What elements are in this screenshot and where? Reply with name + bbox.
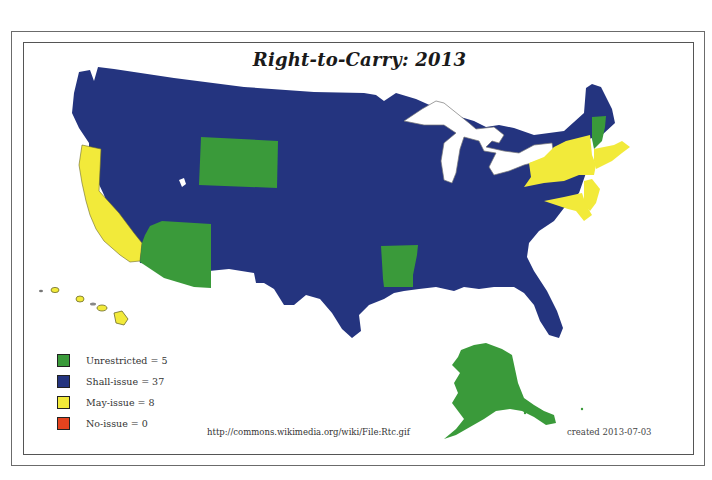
legend-item-shall-issue: Shall-issue = 37 <box>57 371 167 392</box>
state-wyoming <box>199 137 278 188</box>
swatch-unrestricted <box>57 354 70 367</box>
state-shall-issue-mass <box>72 67 615 338</box>
gulf-bay <box>454 293 466 301</box>
state-arizona <box>140 221 211 288</box>
created-date: created 2013-07-03 <box>567 427 652 437</box>
alaska-islet <box>581 408 583 410</box>
source-url: http://commons.wikimedia.org/wiki/File:R… <box>207 427 410 437</box>
legend-label: No-issue = 0 <box>86 418 148 429</box>
state-alaska <box>444 343 556 439</box>
legend-label: Shall-issue = 37 <box>86 376 164 387</box>
state-massachusetts <box>594 141 630 169</box>
alaska-islet <box>524 412 526 414</box>
swatch-no-issue <box>57 417 70 430</box>
legend-label: May-issue = 8 <box>86 397 155 408</box>
legend-label: Unrestricted = 5 <box>86 355 167 366</box>
state-arkansas <box>381 245 418 287</box>
map-frame: Right-to-Carry: 2013 <box>23 42 694 455</box>
legend-item-unrestricted: Unrestricted = 5 <box>57 350 167 371</box>
legend-item-no-issue: No-issue = 0 <box>57 413 167 434</box>
legend-item-may-issue: May-issue = 8 <box>57 392 167 413</box>
swatch-shall-issue <box>57 375 70 388</box>
state-hawaii <box>39 287 128 325</box>
swatch-may-issue <box>57 396 70 409</box>
legend: Unrestricted = 5 Shall-issue = 37 May-is… <box>57 350 167 434</box>
